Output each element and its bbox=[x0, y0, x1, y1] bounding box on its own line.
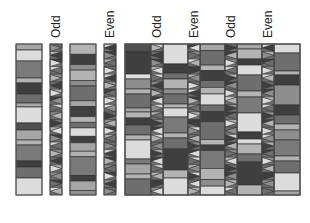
stripe bbox=[16, 50, 42, 61]
stripe bbox=[16, 178, 42, 195]
stripe bbox=[200, 44, 225, 51]
stripe bbox=[70, 128, 96, 136]
stripe bbox=[200, 151, 225, 169]
stripe bbox=[200, 122, 225, 140]
bar-right-4 bbox=[237, 44, 262, 195]
stripe bbox=[163, 138, 188, 149]
bar-right-1 bbox=[125, 44, 151, 195]
stripe bbox=[274, 75, 300, 85]
stripe bbox=[70, 190, 96, 195]
stripe bbox=[16, 167, 42, 178]
stripe bbox=[70, 175, 96, 181]
stripe bbox=[70, 44, 96, 54]
stripe bbox=[16, 44, 42, 50]
stripe bbox=[125, 159, 151, 164]
stripe bbox=[237, 113, 262, 132]
stripe bbox=[274, 191, 300, 195]
stripe bbox=[163, 79, 188, 89]
stripe bbox=[163, 108, 188, 117]
stripe bbox=[274, 85, 300, 105]
stripe bbox=[125, 174, 151, 179]
stripe bbox=[70, 136, 96, 143]
stripe bbox=[125, 179, 151, 195]
stripe bbox=[163, 133, 188, 138]
stripe bbox=[125, 52, 151, 74]
stripe bbox=[274, 124, 300, 130]
stripe bbox=[274, 173, 300, 191]
label-even-1: Even bbox=[103, 11, 117, 38]
stripe bbox=[200, 65, 225, 71]
stripe bbox=[274, 71, 300, 75]
label-odd-2: Odd bbox=[150, 15, 164, 38]
stripe bbox=[70, 86, 96, 101]
stripe bbox=[200, 145, 225, 151]
stripe bbox=[70, 106, 96, 116]
stripe bbox=[70, 143, 96, 151]
stripe bbox=[163, 170, 188, 178]
stripe bbox=[274, 140, 300, 156]
stripe bbox=[16, 123, 42, 130]
stripe bbox=[274, 130, 300, 140]
bar-left-2 bbox=[70, 44, 96, 195]
label-even-2: Even bbox=[187, 11, 201, 38]
bar-right-3 bbox=[200, 44, 225, 195]
stripe bbox=[125, 108, 151, 112]
stripe bbox=[163, 94, 188, 104]
stripe bbox=[70, 70, 96, 80]
stripe bbox=[274, 105, 300, 115]
stripe bbox=[237, 185, 262, 195]
stripe bbox=[125, 89, 151, 94]
stripe bbox=[70, 117, 96, 123]
stripe bbox=[125, 74, 151, 79]
stripe bbox=[237, 132, 262, 139]
stripe bbox=[237, 75, 262, 91]
stripe bbox=[125, 79, 151, 89]
stripe bbox=[237, 91, 262, 97]
bar-right-5 bbox=[274, 44, 300, 195]
stripe bbox=[16, 161, 42, 167]
stripe bbox=[70, 181, 96, 190]
stripe bbox=[70, 54, 96, 64]
stripe bbox=[200, 168, 225, 179]
stripe bbox=[16, 78, 42, 83]
strip-even-2 bbox=[188, 44, 200, 195]
stripe bbox=[125, 94, 151, 108]
stripe bbox=[200, 51, 225, 65]
stripe bbox=[237, 139, 262, 144]
stripe bbox=[125, 125, 151, 135]
stripe bbox=[125, 112, 151, 118]
stripe bbox=[163, 117, 188, 133]
stripe bbox=[274, 115, 300, 124]
stripe bbox=[125, 135, 151, 140]
stripe bbox=[125, 140, 151, 159]
stripe bbox=[125, 164, 151, 174]
stripe bbox=[200, 71, 225, 81]
stripe bbox=[163, 178, 188, 195]
stripe bbox=[237, 162, 262, 185]
stripe bbox=[200, 105, 225, 112]
stripe bbox=[237, 154, 262, 162]
stripe bbox=[70, 151, 96, 157]
stripe bbox=[163, 44, 188, 64]
stripe bbox=[274, 161, 300, 173]
stripe bbox=[70, 65, 96, 71]
stripe bbox=[237, 44, 262, 49]
stripe bbox=[200, 112, 225, 122]
strip-odd-1 bbox=[50, 44, 62, 195]
stripe bbox=[237, 97, 262, 113]
strip-even-1 bbox=[104, 44, 116, 195]
stripe bbox=[200, 87, 225, 94]
label-odd-1: Odd bbox=[49, 15, 63, 38]
label-odd-3: Odd bbox=[224, 15, 238, 38]
stripe bbox=[70, 101, 96, 107]
stripe bbox=[237, 65, 262, 75]
stripe bbox=[200, 186, 225, 195]
stripe bbox=[16, 145, 42, 161]
stripe bbox=[16, 107, 42, 123]
stripe bbox=[70, 157, 96, 176]
stripe bbox=[16, 130, 42, 140]
stripe bbox=[163, 104, 188, 108]
stripe bbox=[237, 144, 262, 154]
stripe bbox=[70, 122, 96, 128]
stripe bbox=[16, 140, 42, 145]
